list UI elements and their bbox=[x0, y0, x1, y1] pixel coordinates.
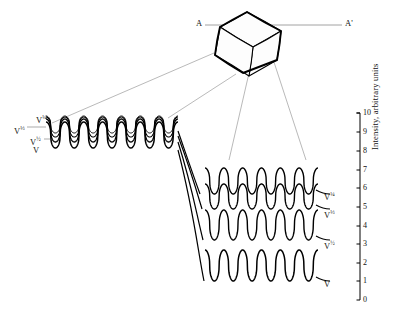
right-trace-label: V½ bbox=[324, 239, 335, 251]
axis-tick-label: 6 bbox=[363, 184, 367, 192]
section-label-a: A bbox=[196, 19, 202, 28]
axis-tick-label: 5 bbox=[363, 203, 367, 211]
left-trace bbox=[46, 117, 178, 137]
right-trace bbox=[205, 210, 318, 240]
left-trace bbox=[46, 122, 178, 148]
crystal-block bbox=[215, 12, 281, 76]
intensity-axis bbox=[357, 113, 361, 300]
right-label-leaders bbox=[316, 190, 330, 281]
axis-tick-label: 2 bbox=[363, 259, 367, 267]
figure-canvas bbox=[0, 0, 402, 316]
connector-curve bbox=[178, 136, 202, 209]
axis-tick-label: 10 bbox=[363, 109, 371, 117]
section-label-a-prime: A' bbox=[345, 19, 353, 28]
left-trace-label: V⅓ bbox=[14, 124, 25, 136]
axis-tick-label: 8 bbox=[363, 147, 367, 155]
fan-connector-curves bbox=[178, 131, 204, 281]
guide-line bbox=[272, 56, 306, 160]
guide-line bbox=[168, 74, 236, 118]
right-waveform-group bbox=[205, 168, 318, 281]
axis-tick-label: 0 bbox=[363, 296, 367, 304]
left-waveform-group bbox=[46, 116, 178, 148]
axis-tick-label: 4 bbox=[363, 222, 367, 230]
guide-line bbox=[52, 53, 214, 123]
right-trace bbox=[205, 168, 318, 194]
right-trace-label: V⅓ bbox=[324, 208, 335, 220]
right-trace bbox=[205, 250, 318, 281]
axis-tick-label: 1 bbox=[363, 277, 367, 285]
right-trace-label: V bbox=[324, 280, 330, 289]
axis-tick-label: 7 bbox=[363, 166, 367, 174]
right-trace-label: V¼ bbox=[324, 190, 335, 202]
left-trace-label: V¼ bbox=[36, 113, 47, 125]
right-trace bbox=[205, 184, 318, 209]
axis-tick-label: 3 bbox=[363, 240, 367, 248]
left-trace-label: V bbox=[33, 146, 39, 155]
axis-tick-label: 9 bbox=[363, 128, 367, 136]
axis-title: Intensity, arbitrary units bbox=[370, 40, 380, 150]
